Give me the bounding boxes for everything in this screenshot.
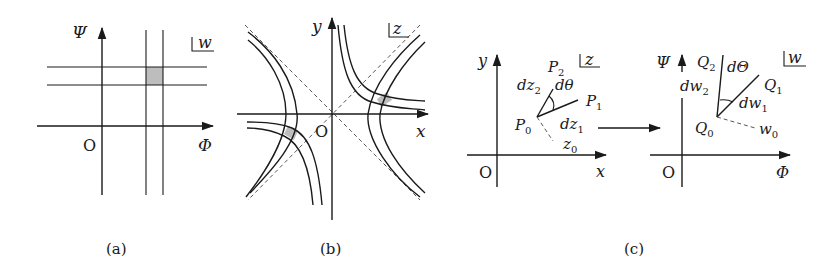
label-w0: w0 [759, 120, 778, 140]
plane-label-z: z [392, 19, 402, 38]
plane-label-w: w [788, 48, 802, 67]
hyperbola-x2y2-right-1 [368, 35, 420, 197]
origin-label: O [315, 122, 328, 141]
label-dz2: dz2 [517, 76, 541, 96]
label-p0: P0 [514, 116, 531, 136]
x-axis-label: x [416, 121, 426, 141]
hyperbola-x2y2-left-2 [246, 40, 286, 197]
label-dw2: dw2 [680, 77, 709, 97]
segment-z0 [537, 117, 553, 141]
angle-arc-dTheta [720, 100, 733, 102]
label-q0: Q0 [695, 119, 714, 139]
psi-axis-label: Ψ [656, 53, 671, 72]
label-z0: z0 [562, 135, 577, 155]
label-p2: P2 [547, 58, 564, 78]
panel-a: w Ψ Φ O (a) [37, 22, 214, 258]
psi-axis-label: Ψ [72, 22, 88, 42]
origin-label: O [662, 163, 675, 182]
segment-w0 [717, 117, 755, 128]
panel-c-z-plane: z y x O P2 dz2 dθ P1 P0 dz1 z0 [467, 50, 606, 187]
label-dTheta: dΘ [727, 58, 749, 76]
conformal-mapping-figure: w Ψ Φ O (a) z y x O (b) [0, 0, 832, 263]
y-axis-label: y [311, 16, 322, 36]
label-q1: Q1 [764, 76, 783, 96]
origin-label: O [83, 136, 96, 155]
shaded-cell [146, 67, 163, 85]
label-p1: P1 [585, 92, 602, 112]
panel-c-w-plane: w Ψ Φ O Q2 dΘ dw2 Q1 dw1 Q0 w0 (c) [624, 48, 806, 258]
label-q2: Q2 [697, 53, 716, 73]
plane-label-z: z [584, 50, 594, 69]
hyperbola-x2y2-left-1 [248, 32, 297, 193]
phi-axis-label: Φ [776, 163, 789, 182]
caption-c: (c) [624, 240, 644, 258]
plane-label-w: w [198, 33, 212, 52]
hyperbola-xy-2 [344, 25, 425, 101]
origin-label: O [479, 163, 492, 182]
hyperbola-xy-3 [247, 122, 322, 205]
x-axis-label: x [596, 162, 605, 181]
caption-a: (a) [106, 240, 127, 258]
angle-arc-dtheta [549, 96, 554, 110]
panel-b: z y x O (b) [237, 16, 428, 258]
phi-axis-label: Φ [198, 135, 212, 155]
label-dw1: dw1 [739, 94, 768, 114]
caption-b: (b) [320, 240, 341, 258]
label-dz1: dz1 [560, 115, 584, 135]
label-dtheta: dθ [555, 76, 574, 94]
segment-dw2 [717, 55, 723, 117]
y-axis-label: y [477, 51, 488, 70]
hyperbola-x2y2-right-2 [380, 42, 425, 193]
